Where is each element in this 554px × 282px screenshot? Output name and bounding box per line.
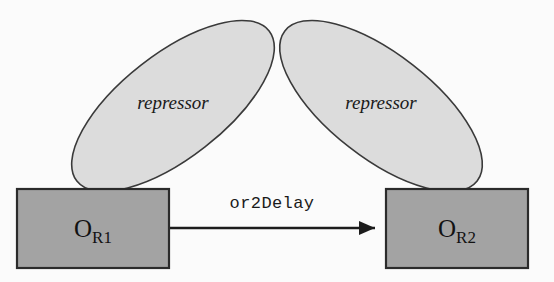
or2-label-subscript: R2 <box>456 228 476 247</box>
diagram-svg: repressor repressor or2Delay OR1 OR2 <box>0 0 554 282</box>
or1-label-base: O <box>74 215 92 242</box>
node-or1[interactable]: OR1 <box>17 189 169 268</box>
edge-arrowhead-icon <box>359 221 375 235</box>
node-or2[interactable]: OR2 <box>386 189 528 268</box>
edge-or1-to-or2[interactable]: or2Delay <box>169 194 375 235</box>
diagram-canvas: repressor repressor or2Delay OR1 OR2 <box>0 0 554 282</box>
repressor-right-label: repressor <box>345 92 417 113</box>
edge-label-or2delay: or2Delay <box>230 194 315 213</box>
or2-label-base: O <box>438 215 456 242</box>
or1-label-subscript: R1 <box>92 228 112 247</box>
repressor-left-label: repressor <box>137 92 209 113</box>
